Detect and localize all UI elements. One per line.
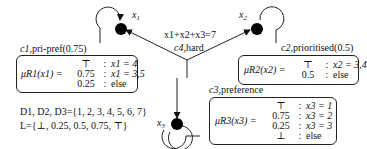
hard-constraint-label: c4,hard [174,43,204,53]
c1-box: μR1(x1) = ⊤:x1 = 4 0.75:x1 = 3,5 0.25:el… [16,55,138,93]
node-label-x2: x2 [239,10,247,20]
c3-box: μR3(x3) = ⊤:x3 = 1 0.75:x3 = 2 0.25:x3 =… [209,97,337,145]
c2-title: c2,prioritised(0.5) [281,43,353,53]
c1-function: μR1(x1) = [21,68,62,79]
node-label-x3: x3 [157,118,165,128]
node-x2 [251,23,263,35]
node-x3 [171,118,183,130]
c2-box: μR2(x2) = ⊤:x2 = 3,4 0.5:else [238,55,359,85]
c2-function: μR2(x2) = [244,64,285,75]
hard-constraint-expr: x1+x2+x3=7 [164,30,216,40]
node-x1 [115,23,127,35]
c3-title: c3,preference [209,85,263,95]
c1-rows: ⊤:x1 = 4 0.75:x1 = 3,5 0.25:else [73,59,145,89]
c1-title: c1,pri-pref(0.75) [20,44,87,54]
c3-rows: ⊤:x3 = 1 0.75:x3 = 2 0.25:x3 = 3 ⊥:else [268,101,332,141]
levels-text: L={⊥, 0.25, 0.5, 0.75, ⊤} [20,121,128,131]
c3-function: μR3(x3) = [215,115,256,126]
c2-rows: ⊤:x2 = 3,4 0.5:else [295,60,367,80]
domains-text: D1, D2, D3={1, 2, 3, 4, 5, 6, 7} [20,107,147,117]
node-label-x1: x1 [132,10,140,20]
